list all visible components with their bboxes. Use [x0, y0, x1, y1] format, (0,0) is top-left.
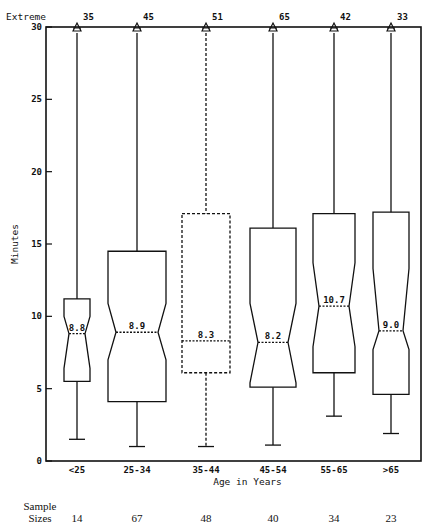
- y-axis-label: Minutes: [9, 224, 20, 264]
- sample-size-value: 14: [72, 512, 84, 524]
- x-tick-label: <25: [69, 465, 85, 475]
- box-25-34: 458.9: [108, 12, 166, 447]
- sample-size-value: 34: [329, 512, 341, 524]
- box->65: 339.0: [373, 12, 409, 434]
- x-axis-label: Age in Years: [213, 476, 282, 487]
- y-tick-label: 5: [37, 384, 42, 394]
- extreme-count: 35: [83, 12, 94, 22]
- box-35-44: 518.3: [182, 12, 230, 447]
- sample-size-value: 67: [132, 512, 144, 524]
- sample-sizes-label-line1: Sample: [24, 500, 57, 512]
- y-tick-label: 15: [31, 239, 42, 249]
- median-label: 8.3: [198, 330, 214, 340]
- median-label: 8.2: [265, 331, 281, 341]
- extreme-count: 42: [340, 12, 351, 22]
- x-tick-label: 55-65: [320, 465, 347, 475]
- y-tick-label: 10: [31, 311, 42, 321]
- x-tick-label: >65: [383, 465, 399, 475]
- sample-size-value: 48: [201, 512, 213, 524]
- extreme-count: 45: [143, 12, 154, 22]
- sample-size-value: 23: [386, 512, 398, 524]
- median-label: 9.0: [383, 320, 399, 330]
- median-label: 8.8: [69, 323, 85, 333]
- box-body: [250, 228, 296, 387]
- box-body: [182, 214, 230, 373]
- y-tick-label: 30: [31, 22, 42, 32]
- y-tick-label: 25: [31, 94, 42, 104]
- extreme-count: 33: [397, 12, 408, 22]
- y-tick-label: 0: [37, 456, 42, 466]
- boxplot-chart: 051015202530MinutesExtreme358.8<2514458.…: [0, 0, 434, 532]
- extreme-count: 65: [279, 12, 290, 22]
- plot-frame: [46, 27, 421, 461]
- extreme-count: 51: [212, 12, 223, 22]
- sample-size-value: 40: [268, 512, 280, 524]
- median-label: 8.9: [129, 321, 145, 331]
- box-55-65: 4210.7: [313, 12, 355, 416]
- x-tick-label: 35-44: [192, 465, 220, 475]
- box-45-54: 658.2: [250, 12, 296, 445]
- box-<25: 358.8: [64, 12, 94, 439]
- box-body: [313, 214, 355, 373]
- median-label: 10.7: [323, 295, 345, 305]
- box-body: [64, 299, 90, 381]
- box-body: [373, 212, 409, 394]
- y-tick-label: 20: [31, 167, 42, 177]
- extreme-label: Extreme: [6, 11, 46, 22]
- x-tick-label: 25-34: [123, 465, 151, 475]
- sample-sizes-label-line2: Sizes: [28, 512, 51, 524]
- x-tick-label: 45-54: [259, 465, 287, 475]
